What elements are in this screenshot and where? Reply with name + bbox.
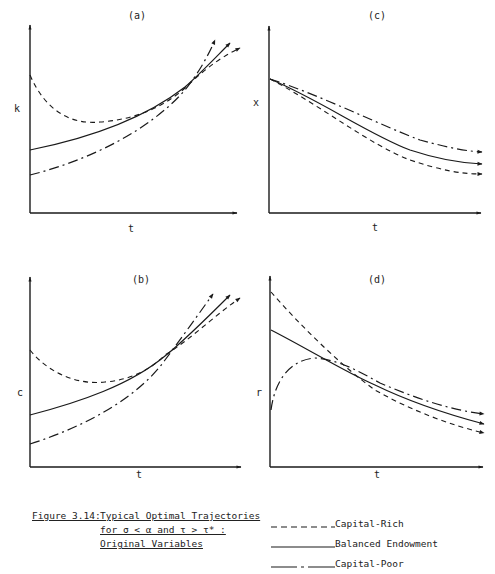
panel-d-balanced-line bbox=[271, 330, 484, 424]
legend-label-capital-poor: Capital-Poor bbox=[335, 558, 404, 569]
caption-line-2: for σ < α and τ > τ* : bbox=[100, 523, 260, 537]
panel-a-capital-rich-line bbox=[30, 48, 240, 122]
panel-a-title: (a) bbox=[128, 10, 146, 21]
panel-d-capital-rich-line bbox=[271, 292, 484, 433]
panel-d: (d) r t bbox=[256, 274, 484, 480]
legend-solid-swatch bbox=[271, 539, 335, 549]
panel-a-capital-poor-line bbox=[30, 40, 215, 175]
panel-a: (a) k t bbox=[14, 10, 240, 234]
panel-b-capital-rich-line bbox=[30, 298, 240, 383]
panel-d-ylabel: r bbox=[256, 387, 262, 398]
legend-label-capital-rich: Capital-Rich bbox=[335, 518, 404, 529]
panel-b: (b) c t bbox=[17, 274, 241, 480]
panel-c-ylabel: x bbox=[253, 97, 259, 108]
legend-label-balanced: Balanced Endowment bbox=[335, 538, 438, 549]
legend-dashed-swatch bbox=[271, 519, 335, 529]
panel-a-ylabel: k bbox=[14, 103, 20, 114]
figure-caption: Typical Optimal Trajectories for σ < α a… bbox=[100, 509, 260, 551]
panel-a-xlabel: t bbox=[128, 223, 134, 234]
figure-canvas: (a) k t (c) x t (b) c t bbox=[0, 0, 495, 574]
panel-b-xlabel: t bbox=[136, 469, 142, 480]
legend-item-capital-rich: Capital-Rich bbox=[271, 509, 438, 529]
panel-d-title: (d) bbox=[368, 274, 386, 285]
panel-b-title: (b) bbox=[132, 274, 150, 285]
caption-line-1: Typical Optimal Trajectories bbox=[100, 509, 260, 523]
panel-c-capital-rich-line bbox=[270, 79, 482, 174]
panel-c-capital-poor-line bbox=[270, 79, 482, 152]
caption-line-3: Original Variables bbox=[100, 537, 260, 551]
panel-b-capital-poor-line bbox=[30, 294, 213, 444]
panel-d-xlabel: t bbox=[374, 469, 380, 480]
panel-c: (c) x t bbox=[253, 10, 482, 233]
legend-item-capital-poor: Capital-Poor bbox=[271, 549, 438, 569]
legend-dash-dot-swatch bbox=[271, 559, 335, 569]
figure-number: Figure 3.14: bbox=[32, 509, 101, 523]
legend-item-balanced: Balanced Endowment bbox=[271, 529, 438, 549]
panel-b-ylabel: c bbox=[17, 387, 23, 398]
panel-c-xlabel: t bbox=[372, 222, 378, 233]
panel-c-title: (c) bbox=[368, 10, 386, 21]
legend: Capital-Rich Balanced Endowment Capital-… bbox=[271, 509, 438, 569]
